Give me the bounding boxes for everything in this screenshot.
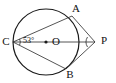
point-label-O: O [52, 35, 60, 47]
point-label-C: C [2, 35, 9, 47]
segment-BP [66, 42, 95, 69]
point-label-B: B [66, 68, 73, 80]
point-label-P: P [101, 34, 107, 46]
segment-AP [72, 16, 95, 42]
geometry-canvas: A B C O P 53° [0, 0, 116, 83]
center-dot-O [44, 40, 47, 43]
point-label-A: A [72, 2, 80, 14]
geometry-figure: A B C O P 53° [0, 0, 116, 83]
angle-label-C: 53° [23, 36, 34, 45]
